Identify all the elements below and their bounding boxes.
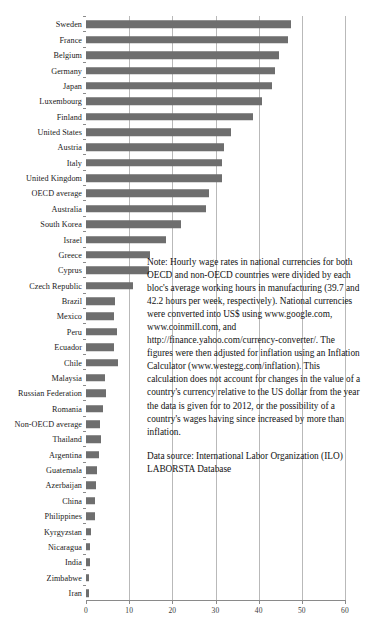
x-tick-label-30: 30 bbox=[212, 606, 220, 615]
bar bbox=[86, 466, 97, 474]
x-tick-50 bbox=[302, 600, 303, 604]
category-label: Romania bbox=[52, 404, 82, 413]
category-label: Italy bbox=[67, 158, 82, 167]
note-paragraph-2: Data source: International Labor Organiz… bbox=[147, 450, 361, 476]
bar bbox=[86, 67, 275, 75]
bar-row: Zimbabwe bbox=[0, 569, 374, 586]
bar bbox=[86, 236, 166, 244]
category-label: Zimbabwe bbox=[47, 573, 82, 582]
y-tick bbox=[83, 323, 86, 324]
category-label: Sweden bbox=[56, 20, 82, 29]
category-label: Peru bbox=[67, 327, 82, 336]
y-tick bbox=[83, 308, 86, 309]
chart-note: Note: Hourly wage rates in national curr… bbox=[147, 256, 361, 476]
x-tick-label-0: 0 bbox=[84, 606, 88, 615]
y-tick bbox=[83, 247, 86, 248]
bar-row: Belgium bbox=[0, 47, 374, 64]
category-label: Brazil bbox=[62, 297, 82, 306]
category-label: Iran bbox=[69, 589, 82, 598]
y-tick bbox=[83, 62, 86, 63]
y-tick bbox=[83, 416, 86, 417]
bar-row: United Kingdom bbox=[0, 170, 374, 187]
category-label: Thailand bbox=[53, 435, 83, 444]
bar bbox=[86, 390, 106, 398]
bar bbox=[86, 113, 253, 121]
y-tick bbox=[83, 385, 86, 386]
bar-row: China bbox=[0, 492, 374, 509]
bar-row: Sweden bbox=[0, 16, 374, 33]
y-tick bbox=[83, 16, 86, 17]
y-tick bbox=[83, 47, 86, 48]
x-tick-30 bbox=[216, 600, 217, 604]
category-label: Germany bbox=[51, 66, 82, 75]
bar bbox=[86, 482, 96, 490]
category-label: Israel bbox=[64, 235, 82, 244]
category-label: United Kingdom bbox=[26, 174, 82, 183]
category-label: Belgium bbox=[53, 51, 82, 60]
bar-row: South Korea bbox=[0, 216, 374, 233]
y-tick bbox=[83, 216, 86, 217]
x-tick-40 bbox=[259, 600, 260, 604]
y-tick bbox=[83, 508, 86, 509]
category-label: Greece bbox=[59, 250, 82, 259]
note-paragraph-1: Note: Hourly wage rates in national curr… bbox=[147, 256, 361, 439]
bar bbox=[86, 559, 90, 567]
category-label: Austria bbox=[58, 143, 82, 152]
category-label: United States bbox=[37, 128, 82, 137]
y-tick bbox=[83, 554, 86, 555]
category-label: Ecuador bbox=[54, 343, 82, 352]
x-tick-label-20: 20 bbox=[168, 606, 176, 615]
y-tick bbox=[83, 293, 86, 294]
bar-row: India bbox=[0, 554, 374, 571]
category-label: Non-OECD average bbox=[15, 420, 82, 429]
y-tick bbox=[83, 277, 86, 278]
y-tick bbox=[83, 400, 86, 401]
bar-row: Australia bbox=[0, 200, 374, 217]
bar bbox=[86, 543, 90, 551]
y-tick bbox=[83, 339, 86, 340]
x-tick-0 bbox=[86, 600, 87, 604]
bar bbox=[86, 128, 231, 136]
y-tick bbox=[83, 354, 86, 355]
category-label: Cyprus bbox=[58, 266, 82, 275]
bar-row: Japan bbox=[0, 77, 374, 94]
category-label: Japan bbox=[63, 81, 82, 90]
bar bbox=[86, 297, 115, 305]
category-label: Guatemala bbox=[46, 466, 82, 475]
y-tick bbox=[83, 108, 86, 109]
bar bbox=[86, 313, 114, 321]
bar-row: Israel bbox=[0, 231, 374, 248]
y-tick bbox=[83, 154, 86, 155]
bar-row: Azerbaijan bbox=[0, 477, 374, 494]
bar bbox=[86, 405, 103, 413]
y-tick bbox=[83, 200, 86, 201]
bar-row: Italy bbox=[0, 154, 374, 171]
y-tick bbox=[83, 139, 86, 140]
y-tick bbox=[83, 569, 86, 570]
bar bbox=[86, 374, 105, 382]
bar-row: France bbox=[0, 31, 374, 48]
category-label: Luxembourg bbox=[39, 97, 82, 106]
bar bbox=[86, 328, 117, 336]
bar bbox=[86, 420, 100, 428]
category-label: India bbox=[65, 558, 82, 567]
y-tick bbox=[83, 523, 86, 524]
category-label: Nicaragua bbox=[48, 542, 82, 551]
y-tick bbox=[83, 446, 86, 447]
category-label: Argentina bbox=[49, 450, 82, 459]
bar bbox=[86, 98, 262, 106]
y-tick bbox=[83, 124, 86, 125]
bar bbox=[86, 251, 150, 259]
y-tick bbox=[83, 492, 86, 493]
bar bbox=[86, 36, 288, 44]
x-tick-10 bbox=[129, 600, 130, 604]
bar bbox=[86, 267, 149, 275]
category-label: Russian Federation bbox=[18, 389, 82, 398]
category-label: Australia bbox=[52, 204, 82, 213]
category-label: Malaysia bbox=[52, 373, 82, 382]
bar-row: OECD average bbox=[0, 185, 374, 202]
y-tick bbox=[83, 369, 86, 370]
bar bbox=[86, 220, 181, 228]
x-tick-20 bbox=[172, 600, 173, 604]
y-tick bbox=[83, 539, 86, 540]
